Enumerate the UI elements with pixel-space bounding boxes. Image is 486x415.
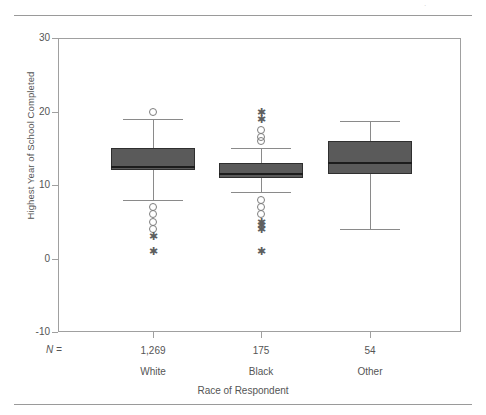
whisker-upper-other xyxy=(370,121,371,141)
x-tick-mark xyxy=(370,332,371,338)
x-group-white: 1,269White xyxy=(93,344,213,379)
bottom-horizontal-rule xyxy=(14,404,472,405)
x-group-black: 175Black xyxy=(201,344,321,379)
top-horizontal-rule xyxy=(14,15,472,16)
x-group-other: 54Other xyxy=(310,344,430,379)
whisker-lower-other xyxy=(370,174,371,229)
y-tick-label: 10 xyxy=(20,180,50,190)
y-tick-mark xyxy=(52,259,58,260)
group-name: Black xyxy=(201,365,321,379)
y-tick-mark xyxy=(52,185,58,186)
outlier-extreme-star: ✱ xyxy=(256,247,266,255)
outlier-extreme-star: ✱ xyxy=(256,225,266,233)
y-tick-mark xyxy=(52,332,58,333)
outlier-circle xyxy=(149,108,157,116)
group-count: 175 xyxy=(201,344,321,358)
y-tick-mark xyxy=(52,38,58,39)
whisker-lower-black xyxy=(261,178,262,193)
n-prefix-label: N = xyxy=(46,344,62,355)
x-tick-mark xyxy=(153,332,154,338)
scan-artifact: · xyxy=(424,2,426,9)
outlier-extreme-star: ✱ xyxy=(148,232,158,240)
whisker-cap-lower-white xyxy=(123,200,183,201)
outlier-extreme-star: ✱ xyxy=(148,247,158,255)
whisker-lower-white xyxy=(153,170,154,199)
x-axis-label: Race of Respondent xyxy=(0,385,486,396)
whisker-cap-lower-other xyxy=(340,229,400,230)
group-count: 1,269 xyxy=(93,344,213,358)
x-tick-mark xyxy=(261,332,262,338)
y-axis-label: Highest Year of School Completed xyxy=(25,46,36,246)
whisker-cap-upper-white xyxy=(123,119,183,120)
y-tick-label: -10 xyxy=(20,327,50,337)
median-line-black xyxy=(219,173,303,175)
median-line-other xyxy=(328,162,412,164)
whisker-cap-upper-black xyxy=(231,148,291,149)
box-other xyxy=(328,141,412,174)
y-tick-mark xyxy=(52,112,58,113)
y-tick-label: 30 xyxy=(20,33,50,43)
outlier-circle xyxy=(257,137,265,145)
plot-frame xyxy=(58,38,461,332)
whisker-upper-white xyxy=(153,119,154,148)
group-count: 54 xyxy=(310,344,430,358)
boxplot-figure: · Highest Year of School Completed 30201… xyxy=(0,0,486,415)
group-name: Other xyxy=(310,365,430,379)
y-tick-label: 0 xyxy=(20,254,50,264)
whisker-cap-upper-other xyxy=(340,121,400,122)
whisker-upper-black xyxy=(261,148,262,163)
median-line-white xyxy=(111,166,195,168)
group-name: White xyxy=(93,365,213,379)
box-black xyxy=(219,163,303,178)
whisker-cap-lower-black xyxy=(231,192,291,193)
y-tick-label: 20 xyxy=(20,107,50,117)
outlier-extreme-star: ✱ xyxy=(256,115,266,123)
